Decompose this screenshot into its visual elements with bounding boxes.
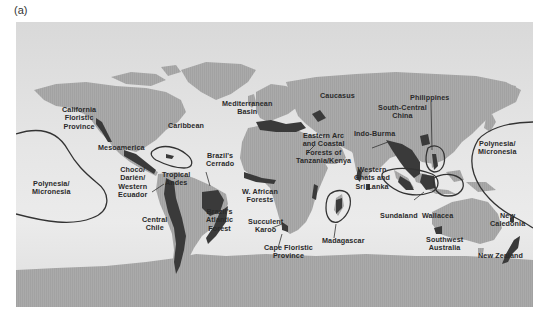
label-wallacea: Wallacea	[422, 212, 453, 220]
label-western-ghats: Western Ghats and Sri Lanka	[354, 166, 390, 191]
label-choco: Choco/ Darién/ Western Ecuador	[118, 166, 147, 200]
label-sundaland: Sundaland	[380, 212, 418, 220]
label-central-chile: Central Chile	[142, 216, 167, 233]
label-cape-floristic: Cape Floristic Province	[264, 244, 313, 261]
label-mesoamerica: Mesoamerica	[98, 144, 145, 152]
land	[16, 62, 533, 307]
label-philippines: Philippines	[410, 94, 449, 102]
label-tropical-andes: Tropical Andes	[162, 171, 190, 188]
label-w-african: W. African Forests	[242, 188, 278, 205]
label-cerrado: Brazil's Cerrado	[206, 152, 234, 169]
label-polynesia-east: Polynesia/ Micronesia	[478, 140, 517, 157]
label-mediterranean: Mediterranean Basin	[222, 100, 272, 117]
label-succulent-karoo: Succulent Karoo	[248, 218, 283, 235]
label-indo-burma: Indo-Burma	[354, 130, 395, 138]
label-new-zealand: New Zealand	[478, 252, 523, 260]
label-polynesia-west: Polynesia/ Micronesia	[32, 180, 71, 197]
label-eastern-arc: Eastern Arc and Coastal Forests of Tanza…	[296, 132, 351, 166]
world-map: California Floristic Province Caribbean …	[16, 22, 533, 307]
label-caucasus: Caucasus	[320, 92, 355, 100]
label-atlantic-forest: Brazil's Atlantic Forest	[206, 208, 233, 233]
label-madagascar: Madagascar	[322, 237, 365, 245]
label-caribbean: Caribbean	[168, 122, 204, 130]
label-new-caledonia: New Caledonia	[490, 212, 525, 229]
map-graphics	[16, 22, 533, 307]
label-southwest-australia: Southwest Australia	[426, 236, 463, 253]
figure-panel-label: (a)	[14, 4, 27, 16]
label-california: California Floristic Province	[62, 106, 96, 131]
label-south-central-china: South-Central China	[378, 104, 427, 121]
